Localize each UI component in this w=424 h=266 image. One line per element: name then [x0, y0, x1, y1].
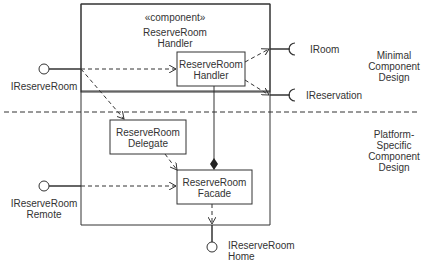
delegate-label-line2: Delegate — [110, 138, 186, 149]
ireserveroom-home-label-line1: IReserveRoom — [228, 240, 295, 251]
handler-label-line2: Handler — [177, 70, 245, 81]
ireserveroom-home-lollipop — [207, 242, 217, 252]
facade-label-line2: Facade — [177, 188, 252, 199]
ireserveroom-remote-lollipop — [39, 181, 49, 191]
minimal-region-line2: Component — [364, 61, 424, 72]
composition-diamond — [210, 158, 218, 170]
platform-region-line4: Design — [364, 162, 424, 173]
ireserveroom-lollipop — [39, 64, 49, 74]
component-stereotype: «component» — [140, 12, 210, 23]
facade-label-line1: ReserveRoom — [177, 177, 252, 188]
component-name-line1: ReserveRoom — [140, 27, 210, 38]
platform-region-line3: Component — [364, 151, 424, 162]
ireserveroom-home-label-line2: Home — [228, 251, 255, 262]
minimal-region-line1: Minimal — [364, 50, 424, 61]
iroom-label: IRoom — [310, 44, 339, 55]
ireserveroom-remote-label-line1: IReserveRoom — [4, 198, 84, 209]
ireserveroom-remote-label-line2: Remote — [4, 209, 84, 220]
handler-label-line1: ReserveRoom — [177, 59, 245, 70]
platform-region-line2: Specific — [364, 140, 424, 151]
component-name-line2: Handler — [140, 38, 210, 49]
ireserveroom-label: IReserveRoom — [4, 81, 84, 92]
delegate-label-line1: ReserveRoom — [110, 127, 186, 138]
platform-region-line1: Platform- — [364, 129, 424, 140]
component-diagram — [0, 0, 424, 266]
minimal-region-line3: Design — [364, 72, 424, 83]
ireservation-label: IReservation — [306, 90, 362, 101]
